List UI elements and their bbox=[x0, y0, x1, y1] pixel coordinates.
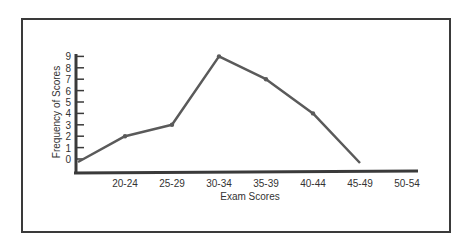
x-tick-label: 50-54 bbox=[394, 178, 420, 189]
x-axis-title: Exam Scores bbox=[220, 191, 279, 202]
x-axis bbox=[74, 171, 418, 173]
x-tick-label: 25-29 bbox=[159, 178, 185, 189]
data-point-marker bbox=[170, 123, 174, 127]
y-axis-title: Frequency of Scores bbox=[51, 66, 62, 158]
y-tick-label: 8 bbox=[65, 63, 71, 74]
y-tick-label: 7 bbox=[65, 74, 71, 85]
y-tick-label: 9 bbox=[65, 51, 71, 62]
data-point-markers bbox=[123, 54, 315, 138]
data-point-marker bbox=[217, 54, 221, 58]
x-tick-label: 20-24 bbox=[112, 178, 138, 189]
data-point-marker bbox=[264, 77, 268, 81]
y-tick-label: 0 bbox=[65, 154, 71, 165]
frequency-line bbox=[78, 56, 360, 163]
x-tick-label: 40-44 bbox=[300, 178, 326, 189]
line-chart: 0123456789 20-2425-2930-3435-3940-4445-4… bbox=[0, 0, 467, 240]
x-tick-label: 30-34 bbox=[206, 178, 232, 189]
y-tick-label: 2 bbox=[65, 131, 71, 142]
x-tick-label: 35-39 bbox=[253, 178, 279, 189]
data-point-marker bbox=[311, 111, 315, 115]
y-tick-label: 3 bbox=[65, 120, 71, 131]
x-tick-label: 45-49 bbox=[347, 178, 373, 189]
y-tick-label: 5 bbox=[65, 97, 71, 108]
y-tick-label: 6 bbox=[65, 86, 71, 97]
y-tick-label: 4 bbox=[65, 108, 71, 119]
y-tick-label: 1 bbox=[65, 143, 71, 154]
data-point-marker bbox=[123, 134, 127, 138]
x-axis-ticks: 20-2425-2930-3435-3940-4445-4950-54 bbox=[112, 178, 420, 189]
